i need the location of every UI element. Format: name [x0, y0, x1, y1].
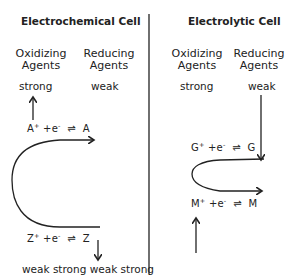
- right-u-curve: [192, 159, 264, 191]
- left-panel-title: Electrochemical Cell: [21, 15, 140, 27]
- equation-g: G+ +e- ⇌ G: [191, 141, 256, 153]
- left-u-curve: [12, 140, 100, 227]
- left-weak-label: weak: [91, 80, 119, 92]
- header-line: Agents: [168, 60, 226, 72]
- left-oxidizing-header: Oxidizing Agents: [12, 48, 70, 72]
- equation-m: M+ +e- ⇌ M: [191, 197, 257, 209]
- equation-z: Z+ +e- ⇌ Z: [27, 232, 90, 244]
- right-weak-label: weak: [248, 80, 276, 92]
- left-reducing-header: Reducing Agents: [80, 48, 138, 72]
- header-line: Agents: [230, 60, 288, 72]
- left-strong-label: strong: [19, 80, 52, 92]
- header-line: Agents: [12, 60, 70, 72]
- right-reducing-header: Reducing Agents: [230, 48, 288, 72]
- right-panel-title: Electrolytic Cell: [188, 15, 281, 27]
- left-bottom-labels: weak strong weak strong: [22, 263, 154, 275]
- right-strong-label: strong: [180, 80, 213, 92]
- header-line: Agents: [80, 60, 138, 72]
- equation-a: A+ +e- ⇌ A: [27, 122, 90, 134]
- right-oxidizing-header: Oxidizing Agents: [168, 48, 226, 72]
